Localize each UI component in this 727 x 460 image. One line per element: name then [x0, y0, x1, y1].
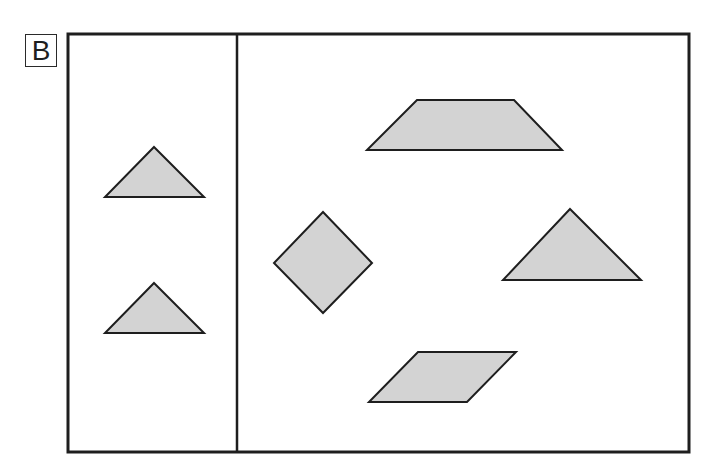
- right-panel: [274, 100, 641, 402]
- trapezoid-shape: [367, 100, 562, 150]
- triangle-lower-shape: [105, 283, 204, 333]
- triangle-upper-shape: [105, 147, 204, 197]
- parallelogram-shape: [369, 352, 516, 402]
- diamond-shape: [274, 212, 372, 313]
- triangle-large-shape: [503, 209, 641, 280]
- diagram-canvas: [0, 0, 727, 460]
- left-panel: [105, 147, 204, 333]
